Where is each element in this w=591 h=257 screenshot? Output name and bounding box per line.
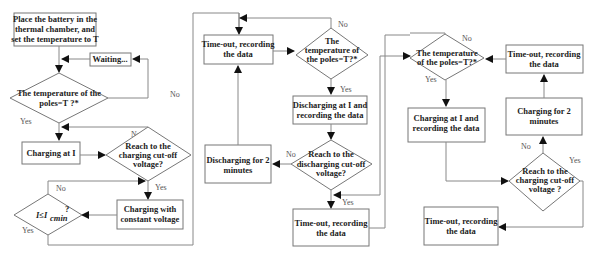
svg-text:No: No [286,150,296,159]
edge-label-no: No [170,90,180,99]
svg-text:Discharging at I and: Discharging at I and [293,100,368,110]
edge-label-yes: Yes [20,117,32,126]
svg-text:Yes: Yes [425,75,437,84]
svg-text:voltage?: voltage? [133,159,163,169]
discharging-2min-box: Discharging for 2 minutes [205,145,271,183]
charging-2min-box: Charging for 2 minutes [506,98,582,135]
reach-charge-cutoff-1-diamond: Reach to the charging cut-off voltage? [106,127,191,181]
svg-text:the data: the data [223,49,253,59]
flowchart-canvas: Place the battery in the thermal chamber… [0,0,591,257]
svg-text:Yes: Yes [155,183,167,192]
svg-text:Time-out, recording: Time-out, recording [508,49,582,59]
svg-text:No: No [521,142,531,151]
place-battery-box: Place the battery in the thermal chamber… [11,13,99,46]
temp-check-3-diamond: The temperature of the poles=T?* [410,34,484,80]
svg-text:Discharging for 2: Discharging for 2 [206,155,269,165]
svg-text:Time-out, recording: Time-out, recording [425,216,499,226]
svg-text:Yes: Yes [340,85,352,94]
svg-text:of the poles=T?*: of the poles=T?* [417,57,477,67]
svg-text:minutes: minutes [530,116,560,126]
svg-text:The temperature of the: The temperature of the [17,88,101,98]
svg-text:I≤I: I≤I [35,210,48,220]
svg-text:Place the battery in the: Place the battery in the [13,14,97,24]
svg-text:No: No [56,184,66,193]
svg-text:recording the data: recording the data [413,123,481,133]
discharging-at-i-box: Discharging at I and recording the data [293,96,368,124]
reach-discharge-cutoff-diamond: Reach to the discharging cut-off voltage… [291,140,372,190]
charging-constant-voltage-box: Charging with constant voltage [117,200,183,229]
svg-text:Charging at I: Charging at I [26,148,76,158]
svg-text:the poles=T?*: the poles=T?* [307,54,358,64]
svg-text:Charging at I and: Charging at I and [414,113,479,123]
svg-text:No: No [462,34,472,43]
svg-text:minutes: minutes [224,165,254,175]
timeout-3-box: Time-out, recording the data [506,45,583,73]
svg-text:?: ? [65,204,69,214]
svg-text:No: No [338,20,348,29]
svg-text:constant voltage: constant voltage [121,214,180,224]
waiting-box: Waiting... [90,53,131,66]
svg-text:Yes: Yes [569,156,581,165]
svg-text:voltage ?: voltage ? [529,184,561,194]
svg-text:the data: the data [316,228,346,238]
svg-text:Yes: Yes [342,198,354,207]
svg-text:Time-out, recording: Time-out, recording [295,218,369,228]
svg-text:poles=T ?*: poles=T ?* [39,98,78,108]
timeout-2-box: Time-out, recording the data [293,209,369,246]
svg-text:recording the data: recording the data [297,110,365,120]
svg-text:Time-out, recording: Time-out, recording [202,39,276,49]
charging-at-i-recording-box: Charging at I and recording the data [408,108,485,142]
svg-text:cmin: cmin [50,213,68,223]
temp-check-2-diamond: The temperature of the poles=T?* [296,28,368,79]
svg-text:the data: the data [529,59,559,69]
svg-text:Charging with: Charging with [124,204,177,214]
charging-at-i-box: Charging at I [22,142,80,164]
timeout-1-box: Time-out, recording the data [202,35,276,64]
svg-text:the data: the data [446,226,476,236]
svg-text:set the temperature to T: set the temperature to T [11,34,99,44]
svg-text:Yes: Yes [22,226,34,235]
svg-text:Reach to the: Reach to the [308,149,354,159]
temp-check-1-diamond: The temperature of the poles=T ?* [10,73,108,123]
svg-text:voltage?: voltage? [316,168,346,178]
svg-text:thermal chamber, and: thermal chamber, and [15,24,95,34]
timeout-4-box: Time-out, recording the data [424,207,498,245]
svg-text:Charging for 2: Charging for 2 [517,106,571,116]
svg-text:Waiting...: Waiting... [92,54,127,64]
